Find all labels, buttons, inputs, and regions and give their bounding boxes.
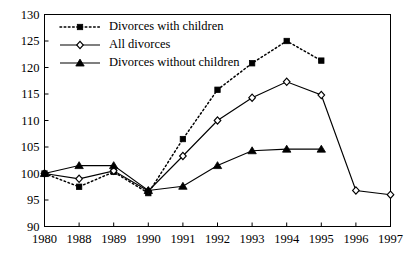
x-tick-label: 1995 [309,232,334,246]
y-tick-label: 100 [21,167,40,181]
y-tick-label: 125 [21,34,40,48]
y-tick-label: 110 [21,114,39,128]
data-point-marker [77,24,82,29]
y-tick-label: 95 [27,193,40,207]
x-tick-label: 1990 [136,232,161,246]
x-tick-label: 1997 [378,232,403,246]
chart-background [0,0,412,262]
y-tick-label: 120 [21,61,40,75]
x-tick-label: 1993 [240,232,265,246]
x-tick-label: 1994 [274,232,300,246]
data-point-marker [284,38,289,43]
y-tick-label: 105 [21,140,40,154]
data-point-marker [180,136,185,141]
x-tick-label: 1991 [170,232,195,246]
data-point-marker [76,184,81,189]
x-tick-label: 1992 [205,232,230,246]
data-point-marker [319,58,324,63]
line-chart: 9095100105110115120125130 19801988198919… [0,0,412,262]
x-axis-tick-labels: 1980198819891990199119921993199419951996… [32,232,403,246]
x-tick-label: 1989 [101,232,126,246]
data-point-marker [215,87,220,92]
legend-label: Divorces without children [109,55,240,69]
x-tick-label: 1988 [67,232,92,246]
x-tick-label: 1980 [32,232,57,246]
legend-label: Divorces with children [109,19,224,33]
y-tick-label: 130 [21,8,40,22]
x-tick-label: 1996 [343,232,368,246]
legend-label: All divorces [109,37,171,51]
y-tick-label: 115 [21,87,39,101]
chart-canvas: 9095100105110115120125130 19801988198919… [0,0,412,262]
data-point-marker [249,61,254,66]
